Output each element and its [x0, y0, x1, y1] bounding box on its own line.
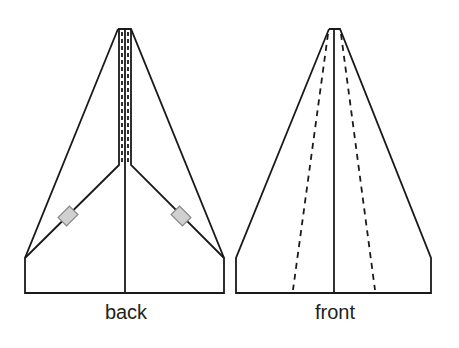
front-view-plane	[236, 29, 431, 293]
back-label: back	[66, 301, 186, 324]
front-label: front	[275, 301, 395, 324]
back-view-plane	[25, 29, 224, 293]
diagram-canvas	[0, 0, 459, 348]
